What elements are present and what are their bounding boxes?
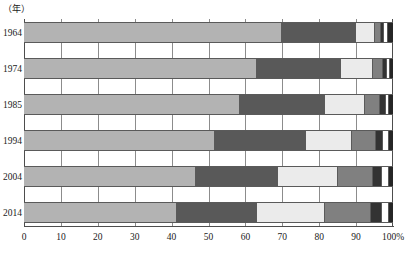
x-axis-line bbox=[24, 226, 394, 227]
bar-segment bbox=[24, 95, 240, 114]
bar-segment bbox=[389, 203, 393, 222]
gridline-20 bbox=[98, 19, 99, 226]
x-axis-tick-label-80: 80 bbox=[314, 232, 324, 243]
bar-segment bbox=[382, 167, 389, 186]
bar-segment bbox=[24, 167, 196, 186]
x-axis-tick-label-20: 20 bbox=[93, 232, 103, 243]
bar-segment bbox=[325, 95, 365, 114]
bar-segment bbox=[278, 167, 338, 186]
gridline-40 bbox=[172, 19, 173, 226]
bar-segment bbox=[306, 131, 352, 150]
bar-segment bbox=[325, 203, 371, 222]
x-axis-tick-label-0: 0 bbox=[22, 232, 27, 243]
bar-segment bbox=[24, 59, 257, 78]
bar-segment bbox=[376, 131, 383, 150]
bar-segment bbox=[196, 167, 278, 186]
bar-segment bbox=[389, 95, 393, 114]
x-axis-tick-label-90: 90 bbox=[351, 232, 361, 243]
bar-segment bbox=[373, 167, 382, 186]
bar-segment bbox=[24, 203, 177, 222]
bar-row bbox=[24, 58, 393, 79]
bar-row bbox=[24, 202, 393, 223]
y-axis-unit-caption: （年） bbox=[3, 4, 30, 15]
gridline-0 bbox=[24, 19, 25, 226]
gridline-80 bbox=[319, 19, 320, 226]
bar-row bbox=[24, 22, 393, 43]
y-axis-tick-label-2014: 2014 bbox=[0, 208, 22, 218]
y-axis-tick-label-1974: 1974 bbox=[0, 64, 22, 74]
bar-segment bbox=[390, 59, 393, 78]
bar-segment bbox=[240, 95, 325, 114]
bar-row bbox=[24, 130, 393, 151]
x-axis-tick-label-40: 40 bbox=[167, 232, 177, 243]
bar-segment bbox=[341, 59, 373, 78]
bar-segment bbox=[389, 131, 393, 150]
gridline-100 bbox=[392, 19, 393, 226]
plot-area bbox=[24, 19, 393, 226]
bar-row bbox=[24, 94, 393, 115]
y-axis-tick-label-2004: 2004 bbox=[0, 172, 22, 182]
bar-segment bbox=[282, 23, 356, 42]
y-axis-tick-label-1985: 1985 bbox=[0, 100, 22, 110]
bar-segment bbox=[382, 203, 389, 222]
gridline-50 bbox=[209, 19, 210, 226]
x-axis-tick-label-30: 30 bbox=[130, 232, 140, 243]
bar-segment bbox=[257, 203, 325, 222]
bar-segment bbox=[352, 131, 376, 150]
bar-segment bbox=[215, 131, 305, 150]
bar-segment bbox=[365, 95, 380, 114]
bar-row bbox=[24, 166, 393, 187]
x-axis-tick-label-10: 10 bbox=[56, 232, 66, 243]
bar-segment bbox=[388, 23, 393, 42]
x-axis-tick-label-100: 100% bbox=[382, 232, 404, 243]
bar-segment bbox=[371, 203, 382, 222]
gridline-60 bbox=[245, 19, 246, 226]
x-axis-tick-label-50: 50 bbox=[204, 232, 214, 243]
gridline-90 bbox=[356, 19, 357, 226]
gridline-70 bbox=[282, 19, 283, 226]
gridline-30 bbox=[135, 19, 136, 226]
x-axis-tick-label-60: 60 bbox=[241, 232, 251, 243]
stacked-bar-chart: （年） 196419741985199420042014010203040506… bbox=[0, 0, 409, 258]
bar-segment bbox=[338, 167, 372, 186]
bar-segment bbox=[24, 23, 282, 42]
bar-segment bbox=[177, 203, 257, 222]
bar-segment bbox=[373, 59, 383, 78]
y-axis-tick-label-1994: 1994 bbox=[0, 136, 22, 146]
bar-segment bbox=[356, 23, 375, 42]
gridline-10 bbox=[61, 19, 62, 226]
bar-segment bbox=[24, 131, 215, 150]
bar-segment bbox=[389, 167, 393, 186]
y-axis-tick-label-1964: 1964 bbox=[0, 28, 22, 38]
x-axis-tick-label-70: 70 bbox=[278, 232, 288, 243]
bar-segment bbox=[257, 59, 341, 78]
